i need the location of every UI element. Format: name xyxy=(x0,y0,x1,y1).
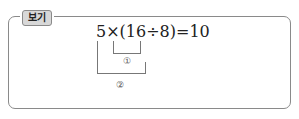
marker-1: ① xyxy=(123,56,131,66)
bracket-2-right xyxy=(145,62,146,73)
bracket-1-left xyxy=(113,41,114,53)
example-tab-label: 보기 xyxy=(22,10,52,26)
bracket-1-bottom xyxy=(113,53,141,54)
bracket-2-bottom xyxy=(97,73,146,74)
bracket-1-right xyxy=(140,41,141,53)
marker-2: ② xyxy=(116,80,124,90)
bracket-2-left xyxy=(97,41,98,73)
equation: 5×(16÷8)=10 xyxy=(96,22,210,42)
